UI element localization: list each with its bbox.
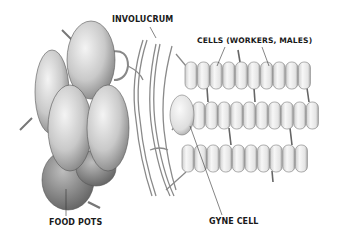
nest-illustration: INVOLUCRUM CELLS (WORKERS, MALES) FOOD P… xyxy=(0,0,339,241)
food-pots-cluster xyxy=(20,21,129,210)
label-gyne-cell: GYNE CELL xyxy=(209,217,259,227)
gyne-cell xyxy=(170,95,194,135)
cell-row-top xyxy=(185,62,310,89)
label-involucrum: INVOLUCRUM xyxy=(112,15,173,25)
cell-row-bottom xyxy=(182,145,307,172)
label-cells-workers-males: CELLS (WORKERS, MALES) xyxy=(197,36,312,46)
label-food-pots: FOOD POTS xyxy=(49,218,102,228)
cell-row-middle xyxy=(193,102,318,129)
